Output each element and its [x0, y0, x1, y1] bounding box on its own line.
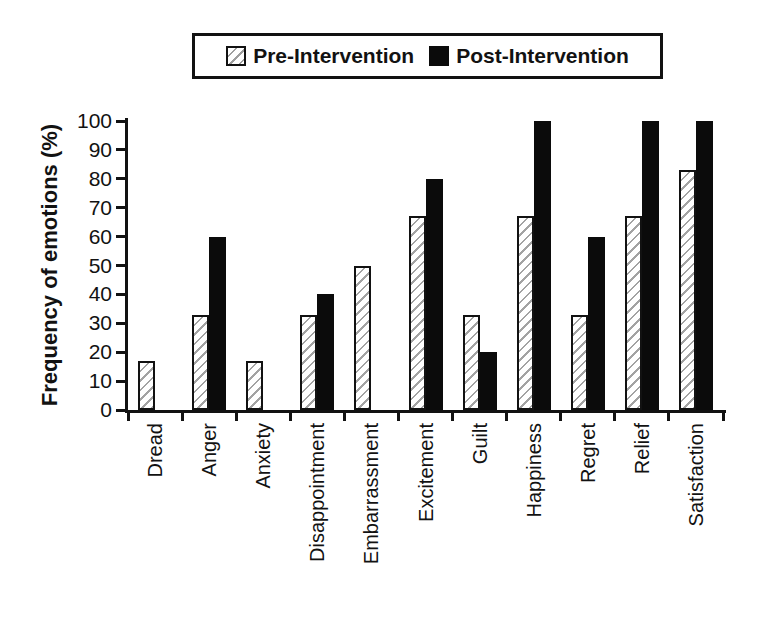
- x-tick-9: [613, 411, 616, 421]
- bar-pre-relief: [625, 216, 642, 410]
- x-label-relief: Relief: [632, 423, 653, 474]
- bar-pre-anxiety: [246, 361, 263, 410]
- x-label-excitement: Excitement: [416, 423, 437, 522]
- y-tick-100: [116, 120, 125, 123]
- y-tick-label-40: 40: [48, 283, 112, 305]
- bar-pre-excitement: [409, 216, 426, 410]
- x-label-embarrassment: Embarrassment: [361, 423, 382, 564]
- y-tick-label-10: 10: [48, 370, 112, 392]
- x-tick-2: [235, 411, 238, 421]
- y-tick-60: [116, 235, 125, 238]
- y-tick-20: [116, 351, 125, 354]
- x-label-happiness: Happiness: [524, 423, 545, 518]
- bar-post-guilt: [480, 352, 497, 410]
- bar-post-relief: [642, 121, 659, 410]
- x-label-dread: Dread: [145, 423, 166, 477]
- bar-post-satisfaction: [696, 121, 713, 410]
- bar-pre-embarrassment: [354, 266, 371, 411]
- y-tick-50: [116, 264, 125, 267]
- x-axis-line: [125, 410, 726, 413]
- y-tick-label-50: 50: [48, 255, 112, 277]
- x-tick-1: [181, 411, 184, 421]
- bar-pre-disappointment: [300, 315, 317, 410]
- bar-pre-guilt: [463, 315, 480, 410]
- legend-label-pre-intervention: Pre-Intervention: [253, 44, 414, 68]
- y-tick-40: [116, 293, 125, 296]
- y-axis-line: [125, 118, 128, 413]
- x-label-anxiety: Anxiety: [253, 423, 274, 489]
- x-label-anger: Anger: [199, 423, 220, 476]
- x-tick-6: [451, 411, 454, 421]
- bar-pre-dread: [138, 361, 155, 410]
- legend-item-post-intervention: Post-Intervention: [429, 44, 629, 68]
- bar-chart-figure: Pre-Intervention Post-Intervention Frequ…: [0, 0, 762, 624]
- y-tick-label-60: 60: [48, 226, 112, 248]
- x-tick-11: [722, 411, 725, 421]
- y-tick-10: [116, 380, 125, 383]
- x-label-satisfaction: Satisfaction: [686, 423, 707, 526]
- y-tick-label-20: 20: [48, 341, 112, 363]
- y-tick-label-90: 90: [48, 139, 112, 161]
- x-tick-4: [343, 411, 346, 421]
- bar-pre-satisfaction: [679, 170, 696, 410]
- solid-black-swatch-icon: [429, 46, 449, 66]
- legend: Pre-Intervention Post-Intervention: [192, 33, 663, 79]
- y-tick-70: [116, 206, 125, 209]
- legend-label-post-intervention: Post-Intervention: [456, 44, 629, 68]
- y-tick-label-100: 100: [48, 110, 112, 132]
- x-tick-0: [127, 411, 130, 421]
- x-tick-7: [505, 411, 508, 421]
- legend-item-pre-intervention: Pre-Intervention: [226, 44, 414, 68]
- bar-post-happiness: [534, 121, 551, 410]
- bar-pre-happiness: [517, 216, 534, 410]
- y-tick-label-70: 70: [48, 197, 112, 219]
- x-tick-3: [289, 411, 292, 421]
- bar-post-disappointment: [317, 294, 334, 410]
- bar-post-anger: [209, 237, 226, 410]
- y-tick-90: [116, 148, 125, 151]
- y-tick-label-0: 0: [48, 399, 112, 421]
- bar-post-regret: [588, 237, 605, 410]
- bar-post-excitement: [426, 179, 443, 410]
- y-tick-80: [116, 177, 125, 180]
- hatched-swatch-icon: [226, 46, 246, 66]
- x-label-regret: Regret: [578, 423, 599, 483]
- bar-pre-anger: [192, 315, 209, 410]
- x-label-guilt: Guilt: [470, 423, 491, 464]
- x-label-disappointment: Disappointment: [307, 423, 328, 562]
- bar-pre-regret: [571, 315, 588, 410]
- x-tick-5: [397, 411, 400, 421]
- y-tick-label-80: 80: [48, 168, 112, 190]
- y-tick-0: [116, 409, 125, 412]
- x-tick-10: [667, 411, 670, 421]
- y-tick-label-30: 30: [48, 312, 112, 334]
- x-tick-8: [559, 411, 562, 421]
- y-tick-30: [116, 322, 125, 325]
